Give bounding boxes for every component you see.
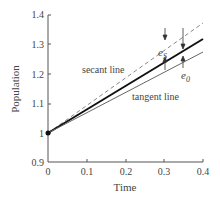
y-tick-label: 1.4 bbox=[32, 9, 45, 20]
x-tick-label: 0.4 bbox=[197, 166, 210, 177]
y-tick-label: 1.2 bbox=[32, 69, 45, 80]
y-tick-label: 0.9 bbox=[32, 157, 45, 168]
e0-label: e0 bbox=[181, 69, 190, 84]
x-tick-label: 0.3 bbox=[158, 166, 171, 177]
y-tick-label: 1.1 bbox=[32, 98, 45, 109]
secant-line-label: secant line bbox=[82, 64, 125, 75]
solution-curve bbox=[48, 39, 203, 133]
x-tick-label: 0 bbox=[46, 166, 51, 177]
x-tick-label: 0.2 bbox=[120, 166, 133, 177]
y-axis-label: Population bbox=[9, 65, 21, 113]
chart: 1.4 1.3 1.2 1.1 1 0.9 0 0.1 0.2 0.3 0.4 … bbox=[0, 0, 220, 201]
y-tick-label: 1 bbox=[39, 128, 44, 139]
y-tick-label: 1.3 bbox=[32, 39, 45, 50]
x-tick-label: 0.1 bbox=[81, 166, 94, 177]
x-axis-label: Time bbox=[114, 181, 137, 193]
tangent-line bbox=[48, 52, 203, 133]
tangent-line-label: tangent line bbox=[132, 91, 179, 102]
initial-point bbox=[46, 131, 51, 136]
secant-line bbox=[48, 23, 203, 133]
es-label: eS bbox=[158, 46, 167, 61]
es-arrows bbox=[163, 28, 185, 70]
